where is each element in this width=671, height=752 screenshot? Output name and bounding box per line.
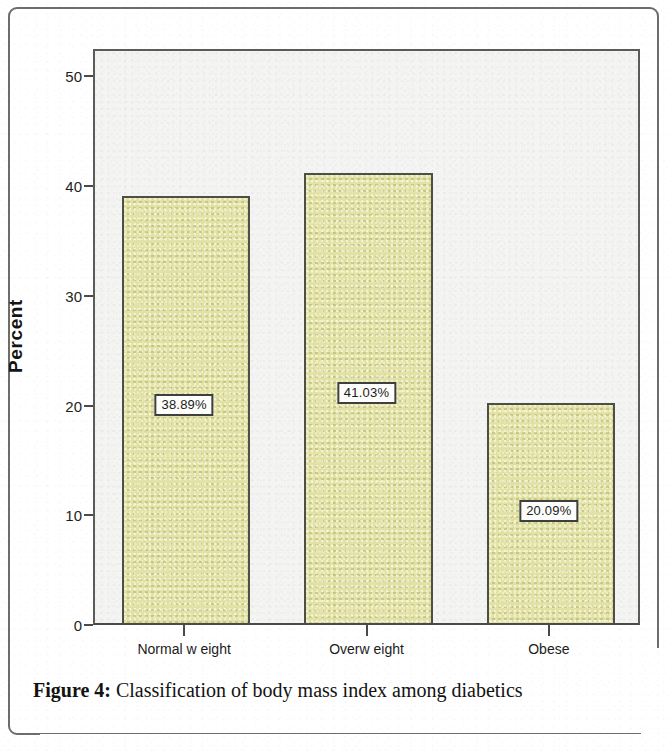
x-axis-tick-mark (366, 625, 368, 636)
x-axis-tick-label: Obese (528, 641, 569, 657)
figure-caption: Figure 4: Classification of body mass in… (33, 679, 633, 702)
bar-value-label: 38.89% (155, 394, 214, 416)
figure-page: Percent 01020304050 Normal w eightOverw … (0, 0, 671, 752)
figure-caption-text: Classification of body mass index among … (116, 679, 523, 701)
bar-chart: Percent 01020304050 Normal w eightOverw … (0, 0, 671, 660)
bar-value-label: 41.03% (337, 382, 396, 404)
figure-caption-label: Figure 4: (33, 679, 111, 701)
y-axis-tick-label: 10 (0, 507, 86, 524)
y-axis-tick-label: 20 (0, 397, 86, 414)
y-axis-tick-label: 50 (0, 68, 86, 85)
y-axis-title: Percent (5, 299, 27, 373)
x-axis-tick-mark (548, 625, 550, 636)
x-axis-tick-label: Normal w eight (137, 641, 230, 657)
y-axis-tick-label: 0 (0, 617, 86, 634)
bar-value-label: 20.09% (519, 500, 578, 522)
x-axis-tick-label: Overw eight (329, 641, 404, 657)
y-axis-tick-label: 30 (0, 287, 86, 304)
y-axis-tick-label: 40 (0, 178, 86, 195)
frame-fade-bottom (40, 734, 671, 752)
x-axis-tick-mark (183, 625, 185, 636)
plot-area (93, 49, 640, 625)
